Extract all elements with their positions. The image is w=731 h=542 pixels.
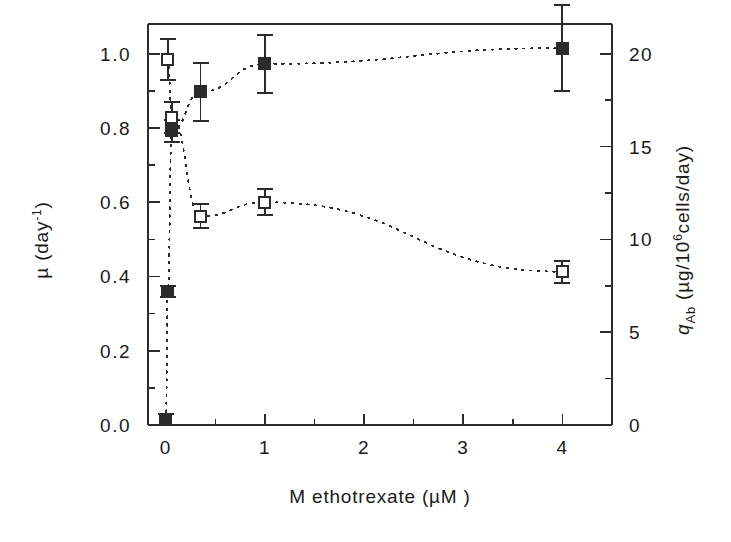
marker-open-square (557, 266, 568, 277)
x-axis-title: M ethotrexate (µM ) (289, 486, 470, 507)
marker-filled-square (166, 125, 177, 136)
right-y-tick-label: 10 (629, 229, 653, 250)
right-y-tick-label: 5 (629, 322, 641, 343)
left-y-tick-label: 0.0 (100, 415, 131, 436)
left-axis-unit-open: (day (31, 221, 52, 267)
x-tick-label: 3 (457, 437, 469, 458)
right-axis-subscript: Ab (683, 306, 698, 324)
left-y-tick-label: 0.6 (100, 192, 131, 213)
x-tick-label: 0 (160, 437, 172, 458)
left-y-tick-label: 0.8 (100, 118, 131, 139)
right-axis-q-symbol: q (672, 324, 693, 335)
marker-open-square (166, 112, 177, 123)
right-axis-exponent: 6 (671, 233, 685, 240)
marker-open-square (259, 197, 270, 208)
marker-open-square (195, 211, 206, 222)
marker-filled-square (160, 414, 171, 425)
right-y-tick-label: 20 (629, 44, 653, 65)
marker-filled-square (259, 58, 270, 69)
marker-filled-square (557, 43, 568, 54)
chart-svg: 01234 0.00.20.40.60.81.0 05101520 M etho… (0, 0, 731, 542)
left-axis-unit-close: ) (31, 201, 52, 208)
left-axis-mu-symbol: µ (31, 267, 52, 279)
marker-filled-square (162, 286, 173, 297)
right-axis-unit-tail: cells/day) (672, 145, 693, 233)
left-y-tick-label: 1.0 (100, 44, 131, 65)
left-axis-exponent: -1 (30, 208, 44, 220)
right-axis-unit-open: (µg/10 (672, 241, 693, 306)
right-y-tick-label: 0 (629, 415, 641, 436)
x-axis-title-text: M ethotrexate (µM ) (289, 486, 470, 507)
right-y-tick-label: 15 (629, 137, 653, 158)
marker-open-square (162, 54, 173, 65)
marker-filled-square (195, 86, 206, 97)
x-tick-label: 1 (259, 437, 271, 458)
x-tick-label: 4 (556, 437, 568, 458)
x-tick-label: 2 (358, 437, 370, 458)
chart-figure: 01234 0.00.20.40.60.81.0 05101520 M etho… (0, 0, 731, 542)
left-y-tick-label: 0.2 (100, 341, 131, 362)
left-y-tick-label: 0.4 (100, 266, 131, 287)
